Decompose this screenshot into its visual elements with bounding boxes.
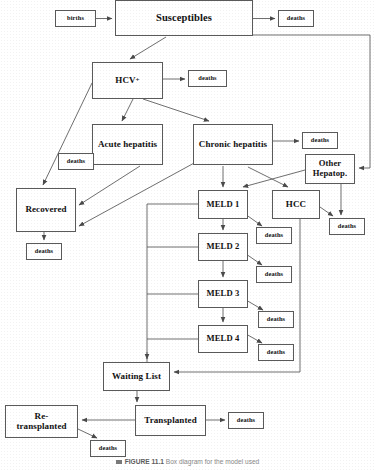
node-waiting-list-label: Waiting List — [112, 372, 161, 381]
node-deaths-hcv[interactable]: deaths — [188, 70, 227, 87]
node-meld-4-label: MELD 4 — [207, 334, 240, 343]
edge-otherhepatop-meld1 — [243, 170, 305, 187]
node-deaths-susceptibles-label: deaths — [287, 15, 305, 22]
node-deaths-retransplanted-label: deaths — [99, 445, 117, 452]
node-deaths-meld-3-label: deaths — [267, 316, 285, 323]
node-retransplanted[interactable]: Re- transplanted — [5, 405, 78, 438]
edge-meld4-deaths — [246, 334, 262, 343]
node-recovered[interactable]: Recovered — [16, 188, 76, 232]
node-hcv-label: HCV — [115, 76, 135, 85]
node-deaths-meld-2[interactable]: deaths — [256, 266, 292, 283]
node-other-hepatop[interactable]: Other Hepatop. — [305, 154, 355, 184]
node-meld-3-label: MELD 3 — [207, 289, 240, 298]
node-acute-hepatitis[interactable]: Acute hepatitis — [92, 124, 163, 165]
edge-hcv-acute — [122, 99, 133, 121]
node-susceptibles[interactable]: Susceptibles — [115, 0, 253, 36]
edge-acute-recovered — [79, 166, 140, 205]
node-deaths-hcv-label: deaths — [198, 75, 216, 82]
node-retransplanted-label-line2: transplanted — [16, 422, 66, 432]
figure-number: FIGURE 11.1 — [125, 458, 164, 465]
node-chronic-hepatitis[interactable]: Chronic hepatitis — [193, 124, 273, 165]
node-other-hepatop-label-line2: Hepatop. — [313, 169, 347, 179]
figure-caption-text: Box diagram for the model used — [166, 458, 259, 465]
node-deaths-meld-1-label: deaths — [265, 232, 283, 239]
caption-square-icon — [116, 460, 122, 464]
node-deaths-recovered-label: deaths — [35, 248, 53, 255]
node-deaths-chronic-label: deaths — [311, 137, 329, 144]
edge-meld2-deaths — [246, 254, 262, 265]
node-transplanted[interactable]: Transplanted — [135, 405, 206, 436]
node-meld-1[interactable]: MELD 1 — [198, 190, 248, 219]
edge-hcc-deaths — [320, 207, 333, 216]
node-deaths-meld-4-label: deaths — [267, 349, 285, 356]
node-deaths-meld-2-label: deaths — [265, 271, 283, 278]
node-meld-4[interactable]: MELD 4 — [198, 325, 248, 353]
node-transplanted-label: Transplanted — [144, 416, 197, 425]
node-hcv-superscript: + — [136, 77, 140, 84]
node-deaths-chronic[interactable]: deaths — [302, 132, 338, 149]
node-deaths-recovered[interactable]: deaths — [26, 243, 62, 260]
node-deaths-susceptibles[interactable]: deaths — [278, 10, 314, 27]
node-meld-2[interactable]: MELD 2 — [198, 233, 248, 261]
node-deaths-acute-label: deaths — [67, 158, 85, 165]
node-hcv[interactable]: HCV+ — [92, 62, 163, 99]
node-meld-3[interactable]: MELD 3 — [198, 280, 248, 308]
node-deaths-meld-1[interactable]: deaths — [256, 227, 292, 244]
rail-retransplanted-deaths — [78, 429, 97, 438]
node-recovered-label: Recovered — [25, 205, 66, 214]
node-meld-1-label: MELD 1 — [207, 200, 240, 209]
node-meld-2-label: MELD 2 — [207, 242, 240, 251]
node-deaths-retransplanted[interactable]: deaths — [90, 440, 126, 457]
node-deaths-meld-3[interactable]: deaths — [258, 311, 294, 328]
node-susceptibles-label: Susceptibles — [156, 12, 212, 23]
figure-canvas: births Susceptibles deaths HCV+ deaths A… — [0, 0, 375, 472]
node-hcc[interactable]: HCC — [272, 190, 320, 219]
figure-caption: FIGURE 11.1 Box diagram for the model us… — [0, 458, 375, 465]
node-births-label: births — [67, 15, 84, 22]
node-deaths-acute[interactable]: deaths — [58, 153, 94, 170]
edge-susceptibles-hcv — [130, 37, 166, 59]
node-chronic-hepatitis-label: Chronic hepatitis — [199, 140, 267, 149]
edge-hcv-chronic — [143, 99, 209, 121]
node-deaths-meld-4[interactable]: deaths — [258, 344, 294, 361]
node-deaths-transplanted-label: deaths — [237, 417, 255, 424]
node-acute-hepatitis-label: Acute hepatitis — [98, 140, 157, 149]
rail-meld1-waitinglist — [147, 204, 198, 372]
node-waiting-list[interactable]: Waiting List — [103, 362, 170, 391]
node-deaths-hcc[interactable]: deaths — [329, 218, 365, 235]
node-deaths-hcc-label: deaths — [338, 223, 356, 230]
edge-meld3-deaths — [246, 300, 263, 310]
node-hcc-label: HCC — [286, 200, 306, 209]
node-deaths-transplanted[interactable]: deaths — [228, 412, 264, 429]
node-births[interactable]: births — [55, 10, 96, 27]
